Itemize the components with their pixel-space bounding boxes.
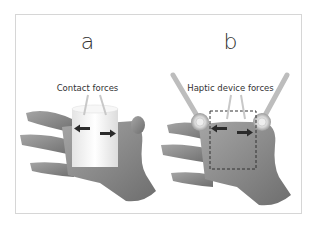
panel-label-b: b (159, 29, 302, 54)
panel-b: b Haptic device forces (159, 15, 302, 213)
panel-label-a: a (16, 29, 159, 54)
caption-contact-forces: Contact forces (16, 83, 159, 93)
panel-a: a Contact forces (16, 15, 159, 213)
caption-haptic-device-forces: Haptic device forces (159, 83, 302, 93)
hand-b (161, 122, 291, 206)
figure-frame: a Contact forces (15, 14, 302, 214)
caption-pointers (227, 95, 245, 119)
